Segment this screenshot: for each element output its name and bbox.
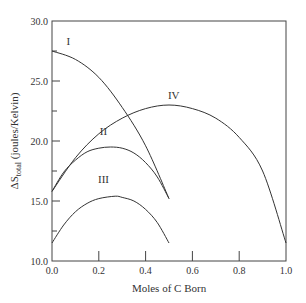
x-tick-label: 0.0 bbox=[46, 265, 59, 276]
curve-label-iv: IV bbox=[168, 89, 180, 101]
curve-label-iii: III bbox=[98, 173, 109, 185]
curve-ii bbox=[52, 147, 169, 199]
x-tick-label: 1.0 bbox=[280, 265, 293, 276]
curve-iv bbox=[52, 105, 286, 243]
x-axis-title: Moles of C Born bbox=[132, 282, 207, 294]
plot-axes bbox=[52, 21, 286, 261]
x-tick-label: 0.4 bbox=[139, 265, 152, 276]
y-tick-label: 25.0 bbox=[31, 76, 49, 87]
x-tick-label: 0.6 bbox=[186, 265, 199, 276]
chart: 10.015.020.025.030.00.00.20.40.60.81.0Mo… bbox=[0, 0, 306, 303]
x-tick-label: 0.2 bbox=[93, 265, 106, 276]
x-tick-label: 0.8 bbox=[233, 265, 246, 276]
curve-iii bbox=[52, 196, 169, 243]
y-tick-label: 20.0 bbox=[31, 136, 49, 147]
y-tick-label: 15.0 bbox=[31, 196, 49, 207]
plot-curves bbox=[52, 51, 286, 243]
y-tick-label: 30.0 bbox=[31, 16, 49, 27]
curve-label-i: I bbox=[67, 35, 71, 47]
plot-frame bbox=[52, 21, 286, 261]
curve-label-ii: II bbox=[100, 125, 108, 137]
y-axis-title: ΔStotal (joules/Kelvin) bbox=[8, 92, 23, 189]
